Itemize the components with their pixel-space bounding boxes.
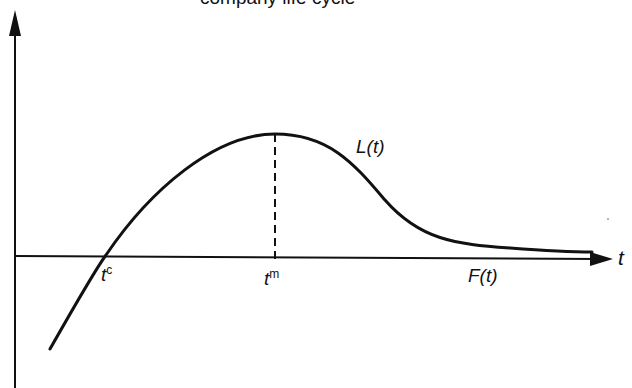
curve-F-label: F(t) (468, 265, 498, 287)
curve-L (50, 134, 592, 349)
x-axis-label: t (618, 246, 624, 270)
curve-L-label: L(t) (356, 136, 385, 158)
x-axis-arrow-icon (590, 252, 613, 266)
print-speck (607, 218, 609, 220)
maximum-point-label: tm (264, 268, 279, 290)
diagram-canvas (0, 0, 632, 388)
y-axis-arrow-icon (9, 10, 21, 36)
crossing-point-label: tc (101, 264, 112, 286)
